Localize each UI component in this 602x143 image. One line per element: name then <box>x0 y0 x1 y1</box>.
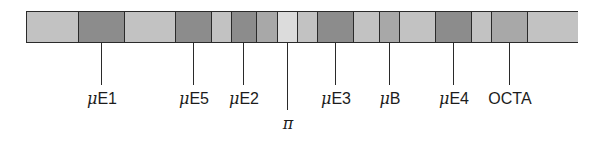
mu-prefix: μ <box>439 89 449 108</box>
segment-light <box>353 11 380 43</box>
segment-light <box>211 11 232 43</box>
label-text: E2 <box>239 90 259 107</box>
element-label: μB <box>379 91 400 107</box>
label-text: B <box>390 90 401 107</box>
element-label: π <box>283 116 294 132</box>
label-tick-line <box>193 43 194 85</box>
mu-prefix: μ <box>321 89 331 108</box>
segment-light <box>297 11 318 43</box>
segment-dark <box>78 11 125 43</box>
label-tick-line <box>287 43 288 110</box>
label-tick-line <box>101 43 102 85</box>
label-text: π <box>283 114 294 133</box>
mu-prefix: μ <box>379 89 389 108</box>
segment-very_light <box>277 11 298 43</box>
mu-prefix: μ <box>87 89 97 108</box>
segment-dark <box>175 11 212 43</box>
mu-prefix: μ <box>229 89 239 108</box>
segment-dark <box>317 11 354 43</box>
segment-light <box>527 11 578 43</box>
segment-medium <box>256 11 278 43</box>
element-label: μE3 <box>321 91 351 107</box>
segment-map-diagram: μE1μE5μE2πμE3μBμE4OCTA <box>0 0 602 143</box>
segment-light <box>471 11 492 43</box>
segment-dark <box>435 11 472 43</box>
label-text: E3 <box>331 90 351 107</box>
element-label: μE1 <box>87 91 117 107</box>
label-tick-line <box>453 43 454 85</box>
element-label: μE2 <box>229 91 259 107</box>
label-tick-line <box>509 43 510 85</box>
segment-light <box>26 11 79 43</box>
mu-prefix: μ <box>179 89 189 108</box>
element-label: μE5 <box>179 91 209 107</box>
label-tick-line <box>389 43 390 85</box>
segment-light <box>399 11 436 43</box>
segment-medium <box>379 11 400 43</box>
label-tick-line <box>335 43 336 85</box>
label-text: E5 <box>189 90 209 107</box>
segment-medium <box>491 11 528 43</box>
label-text: E4 <box>449 90 469 107</box>
segment-dark <box>231 11 257 43</box>
element-label: OCTA <box>488 91 531 107</box>
segment-light <box>124 11 176 43</box>
label-tick-line <box>243 43 244 85</box>
label-text: OCTA <box>488 90 531 107</box>
label-text: E1 <box>97 90 117 107</box>
element-label: μE4 <box>439 91 469 107</box>
